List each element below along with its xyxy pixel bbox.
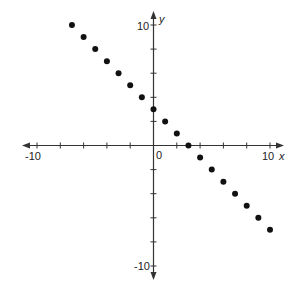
data-point [244,203,250,209]
arrow-left-icon [22,143,30,149]
data-point [174,130,180,136]
origin-label: 0 [156,149,162,161]
data-point [255,215,261,221]
y-max-label: 10 [137,20,149,32]
y-axis-label: y [158,13,166,25]
data-point [69,22,75,28]
coordinate-plane: -10 10 x 10 y -10 0 [0,0,299,293]
data-point [104,58,110,64]
data-point [232,191,238,197]
y-min-label: -10 [134,260,150,272]
data-point [92,46,98,52]
data-point [151,106,157,112]
data-point [185,143,191,149]
data-point [220,179,226,185]
data-point [267,227,273,233]
x-max-label: 10 [262,150,274,162]
data-point [127,82,133,88]
data-point [116,70,122,76]
arrow-right-icon [276,143,284,149]
x-axis-label: x [278,150,285,162]
data-points [69,22,273,233]
data-point [81,34,87,40]
x-min-label: -10 [25,150,41,162]
data-point [209,167,215,173]
arrow-down-icon [151,272,157,280]
data-point [197,155,203,161]
data-point [139,94,145,100]
data-point [162,118,168,124]
arrow-up-icon [151,11,157,19]
